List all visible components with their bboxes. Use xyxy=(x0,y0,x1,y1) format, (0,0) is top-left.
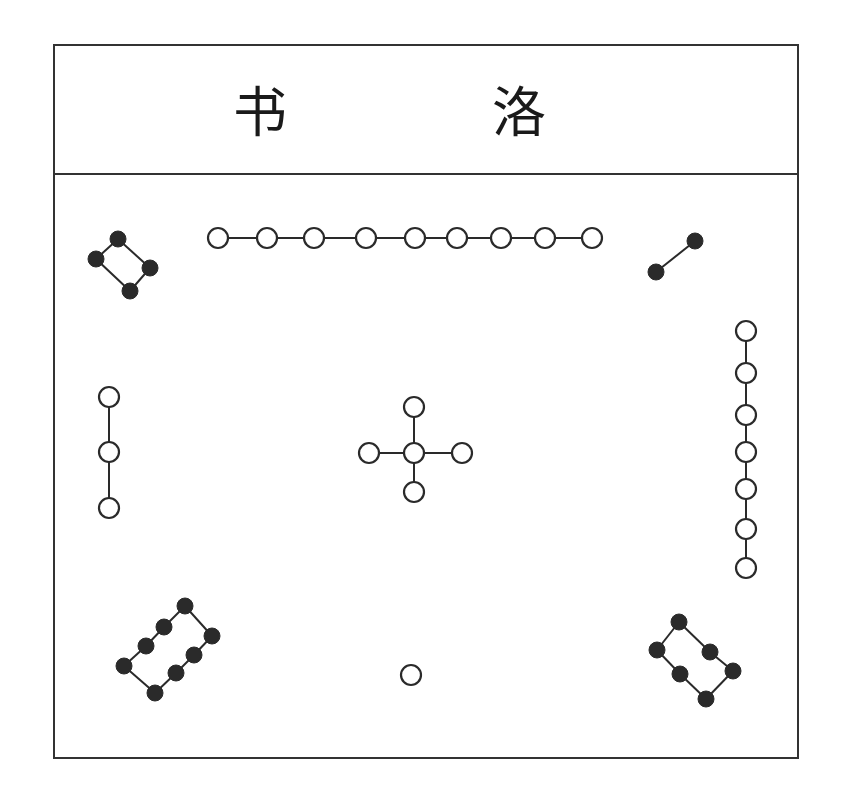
group-6-bottom-right xyxy=(649,614,741,707)
group-3-left xyxy=(99,387,119,518)
filled-dot xyxy=(186,647,202,663)
filled-dot xyxy=(649,642,665,658)
hollow-dot xyxy=(404,397,424,417)
hollow-dot xyxy=(304,228,324,248)
filled-dot xyxy=(671,614,687,630)
group-8-bottom-left xyxy=(116,598,220,701)
hollow-dot xyxy=(535,228,555,248)
filled-dot xyxy=(156,619,172,635)
hollow-dot xyxy=(257,228,277,248)
hollow-dot xyxy=(736,442,756,462)
hollow-dot xyxy=(99,442,119,462)
filled-dot xyxy=(648,264,664,280)
filled-dot xyxy=(116,658,132,674)
hollow-dot xyxy=(404,482,424,502)
hollow-dot xyxy=(736,363,756,383)
filled-dot xyxy=(138,638,154,654)
filled-dot xyxy=(122,283,138,299)
hollow-dot xyxy=(99,387,119,407)
group-4-top-left xyxy=(88,231,158,299)
hollow-dot xyxy=(582,228,602,248)
hollow-dot xyxy=(208,228,228,248)
hollow-dot xyxy=(736,479,756,499)
hollow-dot xyxy=(405,228,425,248)
filled-dot xyxy=(204,628,220,644)
hollow-dot xyxy=(404,443,424,463)
filled-dot xyxy=(177,598,193,614)
hollow-dot xyxy=(401,665,421,685)
filled-dot xyxy=(698,691,714,707)
filled-dot xyxy=(110,231,126,247)
hollow-dot xyxy=(452,443,472,463)
filled-dot xyxy=(725,663,741,679)
hollow-dot xyxy=(99,498,119,518)
filled-dot xyxy=(147,685,163,701)
hollow-dot xyxy=(736,321,756,341)
hollow-dot xyxy=(736,405,756,425)
filled-dot xyxy=(142,260,158,276)
group-2-top-right xyxy=(648,233,703,280)
filled-dot xyxy=(168,665,184,681)
group-5-center xyxy=(359,397,472,502)
filled-dot xyxy=(687,233,703,249)
group-9-top xyxy=(208,228,602,248)
hollow-dot xyxy=(736,519,756,539)
filled-dot xyxy=(702,644,718,660)
filled-dot xyxy=(672,666,688,682)
hollow-dot xyxy=(491,228,511,248)
hollow-dot xyxy=(359,443,379,463)
hollow-dot xyxy=(736,558,756,578)
lo-shu-dot-diagram xyxy=(0,0,844,808)
hollow-dot xyxy=(356,228,376,248)
filled-dot xyxy=(88,251,104,267)
hollow-dot xyxy=(447,228,467,248)
group-7-right xyxy=(736,321,756,578)
group-1-bottom xyxy=(401,665,421,685)
